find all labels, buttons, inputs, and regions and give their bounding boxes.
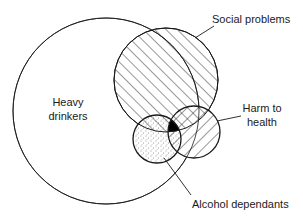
alcohol-dependants-label: Alcohol dependants (192, 198, 289, 210)
harm-to-health-label: Harm to (242, 102, 281, 114)
heavy-drinkers-label: Heavy (52, 96, 84, 108)
harm-to-health-label-line2: health (247, 116, 277, 128)
alcohol-dependants-leader (164, 158, 191, 195)
harm-to-health-leader (217, 116, 241, 121)
heavy-drinkers-label-line2: drinkers (48, 110, 88, 122)
social-problems-leader (195, 26, 214, 38)
social-problems-label: Social problems (212, 13, 291, 25)
venn-diagram: Heavy drinkers Social problems Harm to h… (0, 0, 303, 222)
